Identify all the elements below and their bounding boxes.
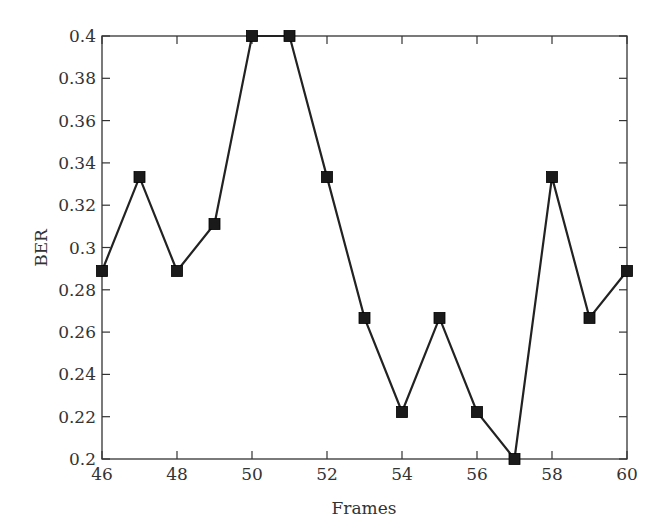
square-marker — [509, 454, 520, 465]
y-tick-label: 0.22 — [58, 407, 96, 427]
axes-box — [102, 36, 627, 459]
square-marker — [547, 172, 558, 183]
x-tick-label: 46 — [91, 464, 113, 484]
square-marker — [247, 31, 258, 42]
plot-frame — [102, 36, 627, 459]
square-marker — [172, 265, 183, 276]
square-marker — [322, 172, 333, 183]
series-line — [102, 36, 627, 459]
y-tick-label: 0.4 — [69, 26, 96, 46]
y-tick-label: 0.36 — [58, 111, 96, 131]
x-tick-label: 60 — [616, 464, 638, 484]
data-series — [97, 31, 633, 465]
square-marker — [209, 219, 220, 230]
x-tick-label: 48 — [166, 464, 188, 484]
y-tick-label: 0.3 — [69, 238, 96, 258]
square-marker — [134, 172, 145, 183]
square-marker — [397, 407, 408, 418]
ber-line-chart: 0.20.220.240.260.280.30.320.340.360.380.… — [0, 0, 671, 529]
y-tick-label: 0.24 — [58, 364, 96, 384]
x-tick-label: 56 — [466, 464, 488, 484]
square-marker — [584, 312, 595, 323]
square-marker — [472, 407, 483, 418]
y-axis-label: BER — [31, 228, 51, 267]
y-tick-label: 0.28 — [58, 280, 96, 300]
x-axis-label: Frames — [332, 498, 397, 518]
y-tick-label: 0.34 — [58, 153, 96, 173]
square-marker — [97, 265, 108, 276]
x-tick-label: 54 — [391, 464, 413, 484]
square-marker — [284, 31, 295, 42]
square-marker — [359, 312, 370, 323]
y-tick-label: 0.38 — [58, 68, 96, 88]
y-tick-label: 0.26 — [58, 322, 96, 342]
x-tick-label: 50 — [241, 464, 263, 484]
x-tick-label: 58 — [541, 464, 563, 484]
square-marker — [622, 265, 633, 276]
square-marker — [434, 312, 445, 323]
y-tick-label: 0.32 — [58, 195, 96, 215]
x-tick-label: 52 — [316, 464, 338, 484]
